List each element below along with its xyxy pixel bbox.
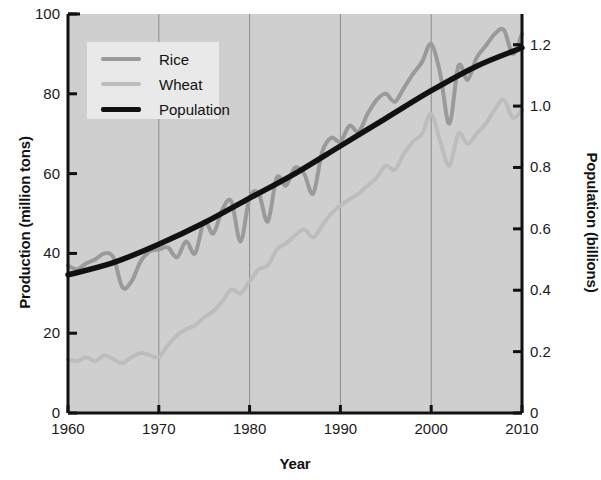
x-axis-title: Year [68, 455, 522, 472]
y-axis-left-title: Production (million tons) [16, 113, 33, 333]
xtick-label-1980: 1980 [220, 420, 280, 437]
ytick-label-right-0: 0 [530, 404, 580, 421]
legend-item-population[interactable]: Population [101, 98, 230, 120]
ytick-label-right-0.8: 0.8 [530, 158, 580, 175]
ytick-label-right-0.6: 0.6 [530, 220, 580, 237]
ytick-label-left-80: 80 [16, 85, 60, 102]
xtick-label-2010: 2010 [492, 420, 552, 437]
xtick-label-1970: 1970 [129, 420, 189, 437]
legend-swatch-rice [101, 57, 141, 61]
ytick-label-right-1.2: 1.2 [530, 36, 580, 53]
xtick-label-2000: 2000 [401, 420, 461, 437]
ytick-label-left-100: 100 [16, 5, 60, 22]
legend-label-population: Population [159, 101, 230, 118]
legend-item-wheat[interactable]: Wheat [101, 73, 202, 95]
chart-legend: RiceWheatPopulation [87, 42, 219, 119]
legend-label-rice: Rice [159, 51, 189, 68]
ytick-label-left-0: 0 [16, 404, 60, 421]
xtick-label-1990: 1990 [310, 420, 370, 437]
xtick-label-1960: 1960 [38, 420, 98, 437]
legend-swatch-population [101, 107, 141, 112]
legend-label-wheat: Wheat [159, 76, 202, 93]
ytick-label-right-0.2: 0.2 [530, 343, 580, 360]
ytick-label-right-1.0: 1.0 [530, 97, 580, 114]
legend-item-rice[interactable]: Rice [101, 48, 189, 70]
ytick-label-right-0.4: 0.4 [530, 281, 580, 298]
legend-swatch-wheat [101, 82, 141, 86]
chart-figure: RiceWheatPopulation 02040608010000.20.40… [0, 0, 601, 480]
y-axis-right-title: Population (billions) [584, 113, 601, 333]
